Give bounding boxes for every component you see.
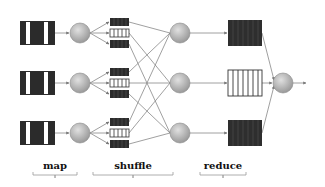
map-node — [70, 23, 90, 43]
reduce-queue-dark — [228, 20, 262, 46]
map-nodes — [70, 23, 90, 143]
map-node — [70, 73, 90, 93]
shuffle-queue-dark — [110, 118, 129, 126]
stage-braces — [33, 172, 246, 178]
reduce-queue-light — [228, 70, 262, 96]
reduce-node — [170, 123, 190, 143]
shuffle-queue-dark — [110, 68, 129, 76]
shuffle-queue-dark — [110, 140, 129, 148]
reduce-node — [170, 23, 190, 43]
map-queues — [20, 21, 55, 145]
label-shuffle: shuffle — [114, 160, 152, 171]
reduce-nodes — [170, 23, 190, 143]
shuffle-queue-light — [110, 129, 129, 137]
reduce-queues — [228, 20, 262, 146]
label-map: map — [43, 160, 67, 171]
mapreduce-diagram: map shuffle reduce — [0, 0, 325, 187]
shuffle-queue-light — [110, 29, 129, 37]
map-queue — [20, 121, 55, 145]
reduce-queue-dark — [228, 120, 262, 146]
output-node — [273, 73, 293, 93]
map-queue — [20, 21, 55, 45]
map-node — [70, 123, 90, 143]
label-reduce: reduce — [204, 160, 242, 171]
shuffle-queue-dark — [110, 90, 129, 98]
map-queue — [20, 71, 55, 95]
shuffle-queue-light — [110, 79, 129, 87]
shuffle-queue-dark — [110, 18, 129, 26]
shuffle-queue-dark — [110, 40, 129, 48]
shuffle-queues — [110, 18, 129, 148]
reduce-node — [170, 73, 190, 93]
